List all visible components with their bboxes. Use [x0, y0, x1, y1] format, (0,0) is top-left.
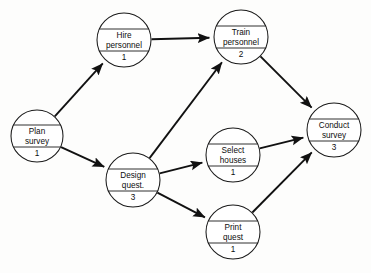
edge-select-to-conduct: [260, 138, 304, 149]
node-label-line1: Train: [232, 28, 251, 37]
edge-line: [157, 193, 205, 218]
edge-line: [55, 63, 103, 116]
edge-hire-to-train: [151, 38, 209, 39]
edge-plan-to-design: [61, 147, 104, 167]
node-label-line2: quest: [223, 233, 244, 242]
node-duration: 1: [122, 53, 127, 62]
diagram-canvas: Plansurvey1Hirepersonnel1Trainpersonnel2…: [0, 0, 371, 273]
node-duration: 1: [231, 168, 236, 177]
node-select-houses[interactable]: Selecthouses1: [206, 128, 260, 182]
node-plan-survey[interactable]: Plansurvey1: [11, 110, 63, 162]
node-duration: 3: [332, 143, 337, 152]
node-duration: 1: [231, 245, 236, 254]
node-train-personnel[interactable]: Trainpersonnel2: [214, 10, 268, 64]
node-conduct-survey[interactable]: Conductsurvey3: [307, 103, 361, 157]
node-hire-personnel[interactable]: Hirepersonnel1: [97, 13, 151, 67]
edge-line: [260, 56, 311, 107]
network-diagram: Plansurvey1Hirepersonnel1Trainpersonnel2…: [0, 0, 371, 273]
node-label-line2: survey: [25, 137, 50, 146]
node-label-line2: survey: [322, 131, 347, 140]
edge-print-to-conduct: [252, 152, 311, 212]
node-label-line1: Select: [222, 146, 245, 155]
edge-plan-to-hire: [55, 63, 103, 116]
edge-layer: [55, 38, 312, 218]
edge-line: [160, 163, 203, 174]
node-label-line1: Plan: [29, 127, 46, 136]
edge-train-to-conduct: [260, 56, 311, 107]
node-label-line1: Hire: [116, 31, 131, 40]
edge-line: [252, 152, 311, 212]
edge-design-to-select: [160, 163, 203, 174]
edge-line: [61, 147, 104, 167]
node-label-line2: personnel: [223, 38, 259, 47]
node-label-line1: Conduct: [319, 121, 350, 130]
edge-line: [260, 138, 304, 149]
node-print-quest[interactable]: Printquest1: [206, 205, 260, 259]
node-duration: 3: [131, 193, 136, 202]
node-label-line1: Design: [120, 171, 146, 180]
node-design-quest[interactable]: Designquest.3: [106, 153, 160, 207]
node-label-line2: houses: [220, 156, 246, 165]
node-layer: Plansurvey1Hirepersonnel1Trainpersonnel2…: [11, 10, 361, 259]
node-label-line1: Print: [225, 223, 243, 232]
node-label-line2: quest.: [122, 181, 144, 190]
node-duration: 2: [239, 50, 244, 59]
edge-line: [151, 38, 209, 39]
node-label-line2: personnel: [106, 41, 142, 50]
node-duration: 1: [35, 149, 40, 158]
edge-design-to-print: [157, 193, 205, 218]
